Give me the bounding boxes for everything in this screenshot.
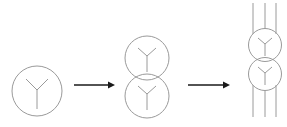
wye-symbol-icon <box>258 67 272 85</box>
vertical-lines-top <box>253 3 276 34</box>
wye-symbol-icon <box>138 48 156 72</box>
arrow-2-icon <box>188 82 230 89</box>
stage-3-transformer-with-lines <box>249 3 282 117</box>
stage-1-single-winding <box>12 66 62 116</box>
arrow-1-icon <box>74 82 115 89</box>
wye-symbol-icon <box>26 79 48 109</box>
vertical-lines-bottom <box>253 85 276 117</box>
stage-2-two-windings <box>125 36 169 118</box>
diagram-canvas <box>0 0 287 127</box>
wye-symbol-icon <box>258 38 272 56</box>
wye-symbol-icon <box>138 86 156 110</box>
